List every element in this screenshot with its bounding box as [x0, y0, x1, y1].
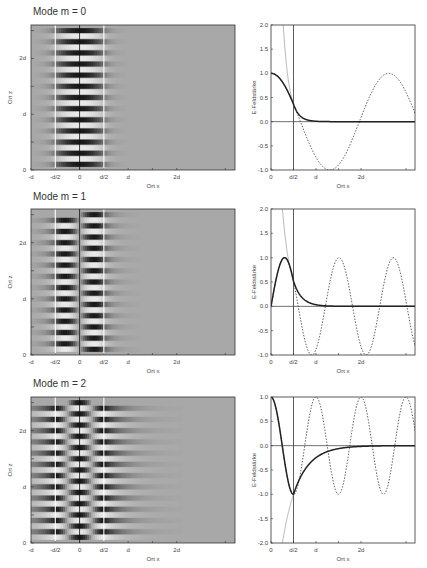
heatmap-xtick: -d/2 — [50, 174, 61, 180]
heatmap-xtick: -d — [28, 547, 33, 553]
profile-xtick: 2d — [358, 359, 365, 365]
panel-title-mode-1: Mode m = 1 — [33, 191, 86, 202]
heatmap-xtick: d/2 — [100, 359, 109, 365]
profile-xtick: d — [314, 359, 317, 365]
profile-ytick: -1.0 — [258, 491, 269, 497]
heatmap-xtick: 0 — [78, 359, 82, 365]
heatmap-ylabel: Ort z — [7, 464, 13, 477]
heatmap-ytick: 0 — [23, 540, 27, 546]
profile-xtick: 2d — [358, 547, 365, 553]
profile-ytick: 0.5 — [260, 95, 269, 101]
heatmap-xlabel: Ort x — [147, 183, 160, 189]
heatmap-ytick: d — [23, 296, 26, 302]
heatmap-ytick: 2d — [19, 240, 26, 246]
profile-ytick: -2.0 — [258, 540, 269, 546]
heatmap-xtick: -d/2 — [50, 359, 61, 365]
heatmap-xtick: 0 — [78, 174, 82, 180]
profile-xlabel: Ort x — [337, 183, 350, 189]
profile-ytick: 1.5 — [260, 46, 269, 52]
heatmap-ytick: 2d — [19, 55, 26, 61]
profile-ytick: -0.5 — [258, 143, 269, 149]
profile-xtick: d/2 — [289, 174, 298, 180]
heatmap-xtick: d — [126, 359, 129, 365]
exponential-continuation-curve — [273, 494, 293, 568]
heatmap-mode-2: -d-d/20d/2d2d0d2dOrt xOrt z — [7, 397, 235, 562]
profile-xtick: d/2 — [289, 547, 298, 553]
profile-ytick: -1.0 — [258, 167, 269, 173]
heatmap-ylabel: Ort z — [7, 91, 13, 104]
field-profile-curve — [271, 73, 415, 121]
field-profile-curve — [271, 258, 415, 307]
profile-xtick: 0 — [269, 359, 273, 365]
profile-ylabel: E-Feldstärke — [251, 80, 257, 115]
profile-ytick: 0.5 — [260, 279, 269, 285]
exponential-continuation-curve — [273, 8, 293, 281]
heatmap-xtick: d — [126, 174, 129, 180]
profile-xlabel: Ort x — [337, 556, 350, 562]
profile-ytick: 1.0 — [260, 255, 269, 261]
profile-ytick: 1.0 — [260, 394, 269, 400]
heatmap-xtick: 2d — [173, 359, 180, 365]
profile-ytick: 0.5 — [260, 418, 269, 424]
heatmap-ylabel: Ort z — [7, 276, 13, 289]
profile-ytick: -0.5 — [258, 467, 269, 473]
profile-ytick: -1.5 — [258, 516, 269, 522]
figure-canvas: -d-d/20d/2d2d0d2dOrt xOrt z0d/2d2d-1.0-0… — [0, 0, 427, 568]
panel-title-mode-0: Mode m = 0 — [33, 6, 86, 17]
exponential-continuation-curve — [273, 0, 293, 104]
heatmap-xtick: d/2 — [100, 547, 109, 553]
heatmap-xtick: -d — [28, 359, 33, 365]
profile-ytick: 0.0 — [260, 119, 269, 125]
heatmap-xtick: -d/2 — [50, 547, 61, 553]
heatmap-ytick: 0 — [23, 167, 27, 173]
profile-ytick: 0.0 — [260, 443, 269, 449]
profile-ytick: -1.0 — [258, 352, 269, 358]
profile-xtick: d — [314, 174, 317, 180]
profile-xtick: d/2 — [289, 359, 298, 365]
profile-ylabel: E-Feldstärke — [251, 264, 257, 299]
heatmap-xtick: 0 — [78, 547, 82, 553]
heatmap-xtick: -d — [28, 174, 33, 180]
heatmap-mode-1: -d-d/20d/2d2d0d2dOrt xOrt z — [7, 209, 235, 374]
heatmap-xtick: 2d — [173, 174, 180, 180]
profile-ytick: -0.5 — [258, 328, 269, 334]
profile-plot-mode-0: 0d/2d2d-1.0-0.50.00.51.01.52.0Ort xE-Fel… — [251, 0, 415, 189]
profile-plot-mode-2: 0d/2d2d-2.0-1.5-1.0-0.50.00.51.0Ort xE-F… — [251, 394, 415, 568]
profile-xtick: 2d — [358, 174, 365, 180]
profile-xlabel: Ort x — [337, 368, 350, 374]
heatmap-mode-0: -d-d/20d/2d2d0d2dOrt xOrt z — [7, 25, 235, 189]
heatmap-xlabel: Ort x — [147, 556, 160, 562]
profile-xtick: 0 — [269, 547, 273, 553]
profile-ylabel: E-Feldstärke — [251, 452, 257, 487]
profile-xtick: d — [314, 547, 317, 553]
heatmap-xtick: 2d — [173, 547, 180, 553]
heatmap-ytick: d — [23, 111, 26, 117]
profile-ytick: 1.0 — [260, 70, 269, 76]
heatmap-ytick: 0 — [23, 352, 27, 358]
heatmap-ytick: d — [23, 484, 26, 490]
heatmap-xlabel: Ort x — [147, 368, 160, 374]
heatmap-ytick: 2d — [19, 428, 26, 434]
panel-mode-0: -d-d/20d/2d2d0d2dOrt xOrt z0d/2d2d-1.0-0… — [7, 0, 415, 189]
profile-ytick: 2.0 — [260, 206, 269, 212]
profile-ytick: 2.0 — [260, 22, 269, 28]
panel-title-mode-2: Mode m = 2 — [33, 378, 86, 389]
panel-mode-2: -d-d/20d/2d2d0d2dOrt xOrt z0d/2d2d-2.0-1… — [7, 394, 415, 568]
profile-ytick: 1.5 — [260, 230, 269, 236]
profile-plot-mode-1: 0d/2d2d-1.0-0.50.00.51.01.52.0Ort xE-Fel… — [251, 8, 415, 374]
heatmap-xtick: d — [126, 547, 129, 553]
heatmap-xtick: d/2 — [100, 174, 109, 180]
figure: -d-d/20d/2d2d0d2dOrt xOrt z0d/2d2d-1.0-0… — [0, 0, 427, 568]
profile-xtick: 0 — [269, 174, 273, 180]
profile-ytick: 0.0 — [260, 303, 269, 309]
